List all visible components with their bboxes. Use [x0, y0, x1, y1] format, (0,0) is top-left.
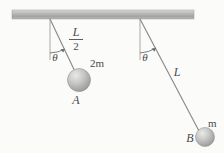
pendulum-a-length-numerator: L	[72, 25, 80, 39]
pendulum-b-length-label: L	[173, 65, 181, 79]
pendulum-a-length-denominator: 2	[73, 40, 79, 52]
pendulum-a-bob	[68, 69, 91, 92]
pendulum-a-mass-label: 2m	[90, 57, 105, 69]
physics-diagram-two-pendulums: L 2 θ 2m A L θ m B	[0, 0, 224, 153]
pendulum-a-bob-label: A	[71, 93, 80, 107]
pendulum-b-mass-label: m	[208, 117, 217, 129]
diagram-canvas: L 2 θ 2m A L θ m B	[0, 0, 224, 153]
pendulum-a-angle-label: θ	[52, 51, 58, 63]
pendulum-b-bob-label: B	[186, 131, 194, 145]
pendulum-b-bob	[196, 128, 215, 147]
ceiling-bar	[12, 10, 194, 19]
pendulum-b-string	[140, 19, 199, 131]
pendulum-b-angle-label: θ	[142, 51, 148, 63]
